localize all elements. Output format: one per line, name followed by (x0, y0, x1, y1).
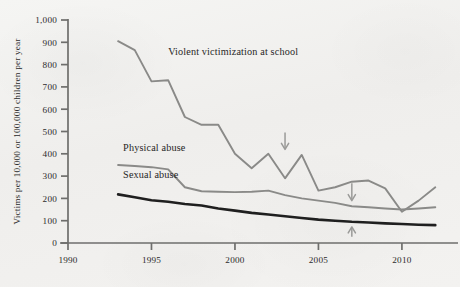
y-tick-label-600: 600 (43, 105, 58, 115)
x-tick-label-2005: 2005 (309, 255, 328, 265)
y-tick-label-200: 200 (43, 194, 58, 204)
arrow-2007-sexual (348, 227, 355, 237)
x-tick-label-2010: 2010 (392, 255, 411, 265)
y-tick-label-1000: 1,000 (35, 15, 57, 25)
y-tick-label-700: 700 (43, 82, 58, 92)
series-line-sexual-abuse (118, 194, 435, 225)
y-axis-title: Victims per 10,000 or 100,000 children p… (12, 38, 22, 224)
series-line-violent-victimization-at-school (118, 41, 435, 212)
y-tick-label-900: 900 (43, 38, 58, 48)
y-tick-label-0: 0 (52, 238, 57, 248)
arrow-2007-physical (348, 183, 355, 200)
y-tick-label-400: 400 (43, 149, 58, 159)
arrow-2003-violent-peak (281, 133, 288, 150)
series-label-violent-victimization-at-school: Violent victimization at school (168, 46, 298, 57)
chart-page: 01002003004005006007008009001,0001990199… (0, 0, 460, 287)
x-tick-label-1990: 1990 (58, 255, 77, 265)
y-tick-label-300: 300 (43, 171, 58, 181)
y-tick-label-100: 100 (43, 216, 58, 226)
line-chart: 01002003004005006007008009001,0001990199… (0, 0, 460, 287)
y-tick-label-500: 500 (43, 127, 58, 137)
y-tick-label-800: 800 (43, 60, 58, 70)
x-tick-label-1995: 1995 (142, 255, 161, 265)
series-label-sexual-abuse: Sexual abuse (123, 169, 179, 180)
series-label-physical-abuse: Physical abuse (123, 142, 186, 153)
x-tick-label-2000: 2000 (225, 255, 244, 265)
